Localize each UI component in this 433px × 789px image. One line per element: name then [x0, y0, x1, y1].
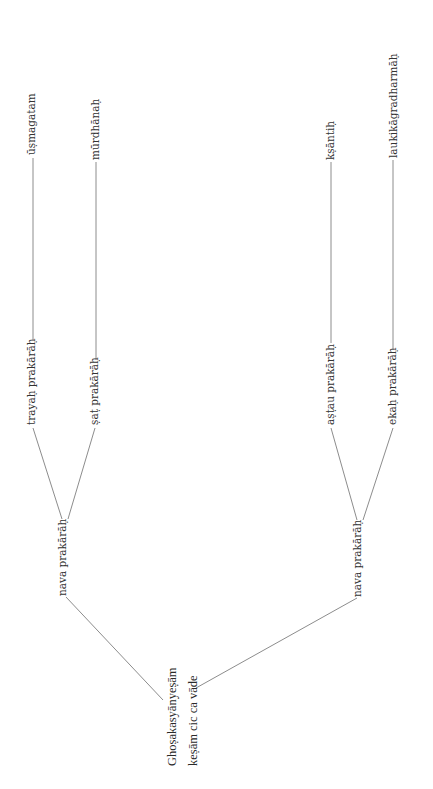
- root-node-line2: keṣām cic ca vāde: [187, 675, 200, 766]
- leaf-ksantih: kṣāntiḥ: [325, 121, 336, 160]
- upper-branch-node: nava prakārāḥ: [57, 519, 68, 596]
- edge-lower-to-astau: [331, 428, 357, 520]
- node-trayah-prakarah: trayaḥ prakārāḥ: [26, 339, 37, 425]
- lower-branch-node: nava prakārāḥ: [352, 520, 363, 597]
- edge-upper-to-trayah: [33, 428, 62, 519]
- root-node-line1: Ghoṣakasyānyeṣām: [166, 667, 179, 766]
- leaf-usmagatam: ūṣmagatam: [26, 93, 37, 155]
- node-sat-prakarah: ṣaṭ prakārāḥ: [89, 357, 100, 425]
- tree-diagram: [0, 0, 433, 789]
- node-ekah-prakarah: ekaḥ prakārāḥ: [387, 347, 398, 425]
- leaf-laukikagradharmah: laukikāgradharmāḥ: [388, 54, 399, 158]
- edge-root-to-upper-branch: [66, 597, 163, 700]
- edge-upper-to-sat: [68, 428, 95, 519]
- edge-root-to-lower-branch: [196, 598, 357, 688]
- leaf-murdhanah: mūrdhānaḥ: [90, 99, 101, 160]
- tree-edges: [33, 158, 393, 700]
- edge-lower-to-ekah: [363, 428, 393, 520]
- node-astau-prakarah: aṣṭau prakārāḥ: [325, 344, 336, 425]
